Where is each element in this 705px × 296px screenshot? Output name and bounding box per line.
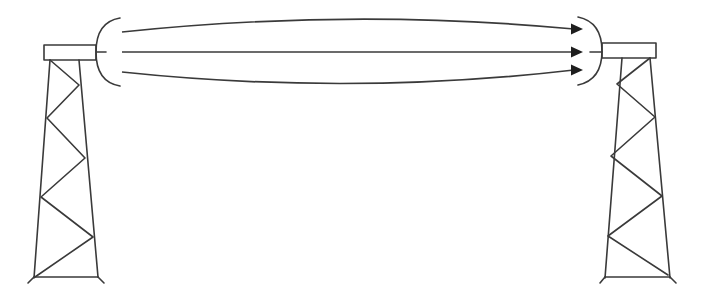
lower-beam bbox=[122, 70, 574, 84]
right-crossarm bbox=[602, 43, 656, 58]
left-tower bbox=[28, 45, 104, 283]
left-crossarm bbox=[44, 45, 96, 60]
left-tower-foot-left bbox=[28, 277, 34, 283]
lower-arrowhead-icon bbox=[571, 65, 583, 76]
left-tower-lattice bbox=[35, 60, 93, 277]
transmission-diagram bbox=[0, 0, 705, 296]
right-tower bbox=[600, 43, 676, 283]
left-tower-foot-right bbox=[98, 277, 104, 283]
upper-beam bbox=[122, 19, 574, 32]
receiver-dish bbox=[578, 17, 602, 85]
right-tower-foot-right bbox=[670, 277, 676, 283]
left-tower-leg-left bbox=[34, 60, 50, 278]
upper-arrowhead-icon bbox=[571, 24, 583, 35]
right-tower-leg-left bbox=[605, 58, 622, 278]
transmitter-dish bbox=[96, 18, 120, 86]
center-arrowhead-icon bbox=[571, 47, 583, 58]
receiver-arc-icon bbox=[578, 17, 602, 85]
right-tower-lattice bbox=[608, 58, 668, 275]
right-tower-foot-left bbox=[600, 277, 605, 283]
beams bbox=[122, 19, 583, 83]
right-tower-leg-right bbox=[650, 58, 670, 278]
